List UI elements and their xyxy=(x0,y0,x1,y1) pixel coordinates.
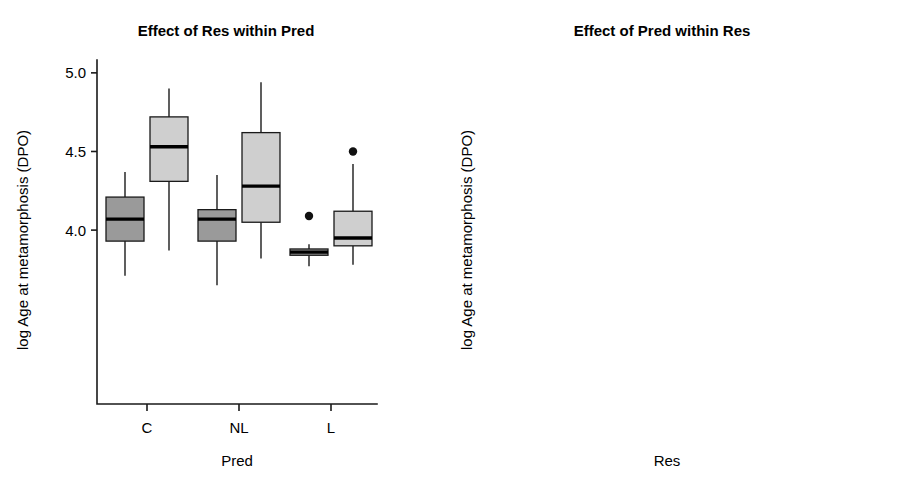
boxplot-Hi-NL xyxy=(198,175,236,285)
box-body xyxy=(334,211,372,246)
boxplot-Lo-C xyxy=(150,89,188,251)
y-tick-label: 4.5 xyxy=(65,143,86,160)
boxplot-Hi-L xyxy=(290,212,328,267)
box-body xyxy=(198,210,236,241)
x-tick-label: C xyxy=(142,419,153,436)
right-x-axis-title: Res xyxy=(654,452,681,469)
outlier-point xyxy=(305,212,313,220)
figure-root: Effect of Res within Pred log Age at met… xyxy=(0,0,904,484)
x-tick-label: NL xyxy=(229,419,248,436)
boxplot-Hi-C xyxy=(106,172,144,276)
box-body xyxy=(150,117,188,181)
right-panel: Effect of Pred within Res log Age at met… xyxy=(452,0,904,484)
left-y-axis-title: log Age at metamorphosis (DPO) xyxy=(14,130,31,350)
left-plot-area: 5.04.54.0CNLL xyxy=(65,60,377,436)
boxplot-Lo-NL xyxy=(242,82,280,258)
x-tick-label: L xyxy=(327,419,335,436)
right-panel-title: Effect of Pred within Res xyxy=(574,22,751,39)
box-body xyxy=(242,133,280,223)
right-y-axis-title: log Age at metamorphosis (DPO) xyxy=(458,130,475,350)
left-panel: Effect of Res within Pred log Age at met… xyxy=(0,0,452,484)
boxplot-Lo-L xyxy=(334,147,372,264)
y-tick-label: 4.0 xyxy=(65,222,86,239)
left-x-axis-title: Pred xyxy=(221,452,253,469)
left-panel-title: Effect of Res within Pred xyxy=(138,22,315,39)
outlier-point xyxy=(349,147,357,155)
y-tick-label: 5.0 xyxy=(65,64,86,81)
